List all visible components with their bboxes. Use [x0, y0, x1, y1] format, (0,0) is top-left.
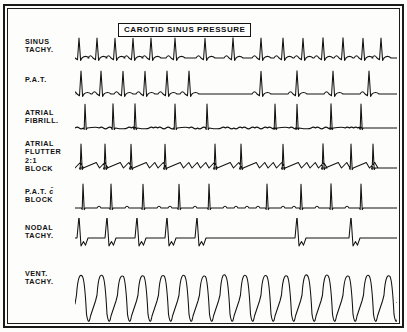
strip-label-line: FIBRILL.	[25, 117, 59, 125]
strip-label-line: TACHY.	[25, 278, 53, 286]
strip-label-line: TACHY.	[25, 232, 53, 240]
strip-label-line: TACHY.	[25, 46, 53, 54]
strip-label-line: BLOCK	[25, 165, 61, 173]
waveform-path	[75, 38, 397, 61]
strip-label-atrial-flutter: ATRIALFLUTTER2:1BLOCK	[25, 140, 61, 174]
ecg-strip-vent-tachy: VENT.TACHY.	[7, 270, 400, 322]
strip-label-line: BLOCK	[25, 196, 54, 204]
ecg-trace-nodal-tachy	[75, 218, 397, 266]
waveform-path	[75, 218, 397, 246]
strip-label-pat: P.A.T.	[25, 76, 47, 84]
ecg-figure: CAROTID SINUS PRESSURE SINUSTACHY.P.A.T.…	[0, 0, 407, 332]
waveform-path	[75, 104, 397, 130]
strip-label-atrial-fibrill: ATRIALFIBRILL.	[25, 109, 59, 126]
carotid-sinus-pressure-label: CAROTID SINUS PRESSURE	[124, 25, 245, 34]
waveform-path	[75, 184, 397, 210]
ecg-strip-pat-block: P.A.T. c̄BLOCK	[7, 188, 400, 222]
figure-content: CAROTID SINUS PRESSURE SINUSTACHY.P.A.T.…	[7, 8, 400, 324]
ecg-strip-atrial-flutter: ATRIALFLUTTER2:1BLOCK	[7, 140, 400, 180]
waveform-path	[75, 275, 397, 322]
strip-label-vent-tachy: VENT.TACHY.	[25, 270, 53, 287]
strip-label-sinus-tachy: SINUSTACHY.	[25, 38, 53, 55]
strip-label-pat-block: P.A.T. c̄BLOCK	[25, 188, 54, 205]
ecg-strip-nodal-tachy: NODALTACHY.	[7, 224, 400, 260]
ecg-trace-vent-tachy	[75, 260, 397, 324]
waveform-path	[75, 144, 397, 170]
waveform-path	[75, 71, 397, 97]
ecg-strip-sinus-tachy: SINUSTACHY.	[7, 38, 400, 72]
strip-label-nodal-tachy: NODALTACHY.	[25, 224, 53, 241]
strip-label-line: P.A.T.	[25, 76, 47, 84]
